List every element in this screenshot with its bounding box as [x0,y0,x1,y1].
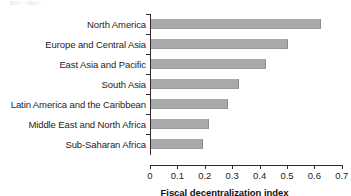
x-axis-tick [205,165,206,169]
fiscal-decentralization-bar-chart: North AmericaEurope and Central AsiaEast… [0,0,351,196]
y-axis-tick [146,74,150,75]
bar [151,19,321,29]
x-axis-tick-label: 0.1 [171,170,184,181]
bar-row: Middle East and North Africa [0,114,351,134]
bar [151,119,209,129]
x-axis-tick [342,165,343,169]
bar [151,139,203,149]
x-axis-tick-label: 0 [147,170,152,181]
x-axis-tick-label: 0.2 [198,170,211,181]
bar [151,99,228,109]
x-axis-tick-label: 0.5 [280,170,293,181]
y-axis-tick [146,114,150,115]
x-axis-tick [287,165,288,169]
category-label: Sub-Saharan Africa [65,139,146,150]
x-axis-tick [150,165,151,169]
plot-area: North AmericaEurope and Central AsiaEast… [0,10,351,155]
x-axis-tick-label: 0.6 [308,170,321,181]
y-axis-tick [146,54,150,55]
category-label: East Asia and Pacific [59,59,146,70]
bar-row: Latin America and the Caribbean [0,94,351,114]
y-axis-tick [146,134,150,135]
bar [151,59,266,69]
bar-row: Europe and Central Asia [0,34,351,54]
x-axis-tick [177,165,178,169]
bar-row: Sub-Saharan Africa [0,134,351,154]
category-label: Europe and Central Asia [45,39,146,50]
bar-row: North America [0,14,351,34]
category-label: South Asia [102,79,146,90]
category-label: North America [87,19,146,30]
y-axis-tick [146,94,150,95]
category-label: Latin America and the Caribbean [11,99,146,110]
bar-row: East Asia and Pacific [0,54,351,74]
bar-row: South Asia [0,74,351,94]
x-axis-line [150,165,342,166]
category-label: Middle East and North Africa [28,119,146,130]
y-axis-tick [146,14,150,15]
x-axis-tick [260,165,261,169]
x-axis-tick-label: 0.4 [253,170,266,181]
scan-artifact [10,1,44,5]
bar [151,79,239,89]
x-axis-tick-label: 0.7 [335,170,348,181]
x-axis-tick [232,165,233,169]
bar [151,39,288,49]
y-axis-tick [146,34,150,35]
x-axis-tick-label: 0.3 [226,170,239,181]
x-axis-title: Fiscal decentralization index [0,187,351,196]
x-axis-tick [314,165,315,169]
